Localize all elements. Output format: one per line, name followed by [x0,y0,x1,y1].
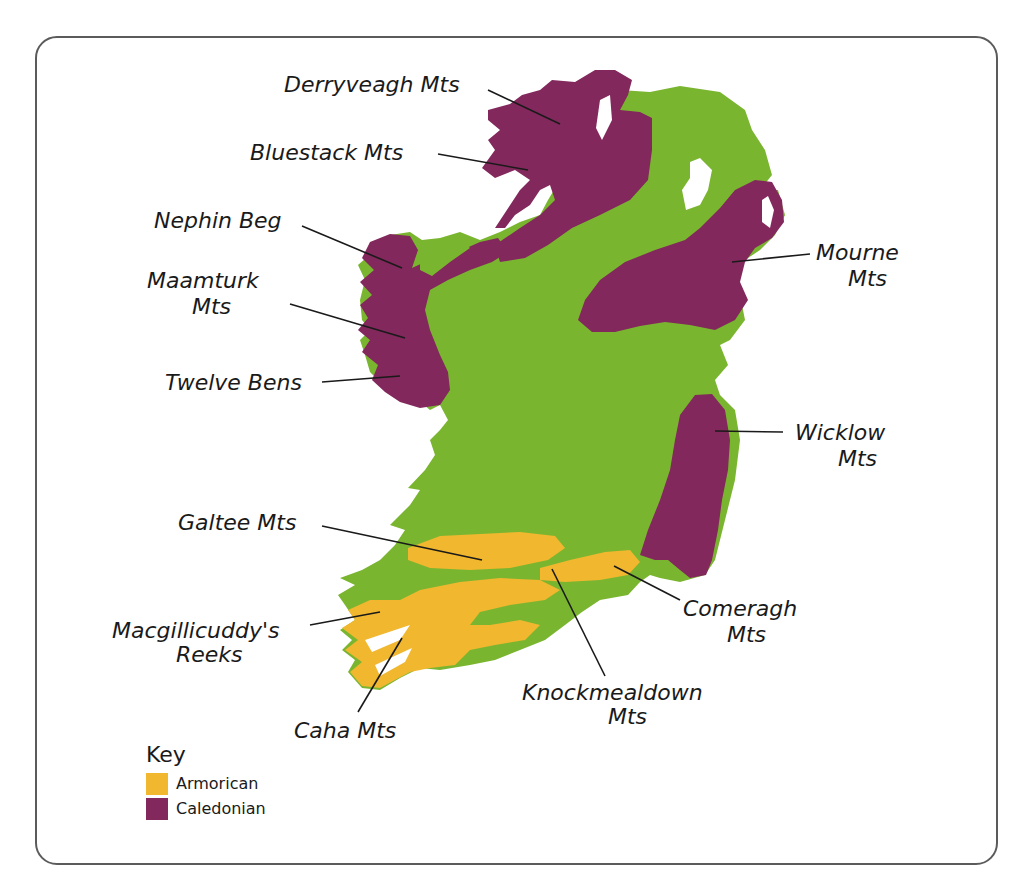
label-twelve-bens: Twelve Bens [165,370,302,395]
label-caha: Caha Mts [294,718,396,743]
label-mourne-line2: Mts [848,266,887,291]
label-maamturk-line2: Mts [192,294,231,319]
key-item-armorican: Armorican [146,771,266,796]
key-title: Key [146,742,266,767]
label-derryveagh: Derryveagh Mts [284,72,460,97]
label-wicklow-line2: Mts [838,446,877,471]
map-key: Key Armorican Caledonian [146,742,266,821]
label-knockmealdown-line1: Knockmealdown [522,680,703,705]
label-wicklow-line1: Wicklow [795,420,886,445]
armorican-swatch [146,773,168,795]
key-label-caledonian: Caledonian [176,799,266,818]
key-item-caledonian: Caledonian [146,796,266,821]
label-mourne-line1: Mourne [816,240,899,265]
label-knockmealdown-line2: Mts [608,704,647,729]
label-maamturk-line1: Maamturk [147,268,260,293]
leader-wicklow [715,431,783,432]
label-comeragh-line1: Comeragh [683,596,797,621]
label-macgillicuddy-line2: Reeks [176,642,243,667]
caledonian-swatch [146,798,168,820]
key-label-armorican: Armorican [176,774,258,793]
label-bluestack: Bluestack Mts [250,140,403,165]
label-macgillicuddy-line1: Macgillicuddy's [112,618,279,643]
label-galtee: Galtee Mts [178,510,296,535]
label-nephin: Nephin Beg [154,208,282,233]
label-comeragh-line2: Mts [727,622,766,647]
